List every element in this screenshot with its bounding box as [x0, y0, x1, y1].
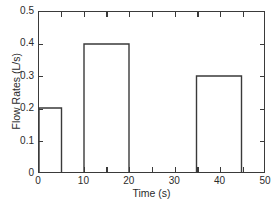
y-axis-tick-label: 0.1	[20, 136, 34, 146]
plot-area	[38, 11, 265, 173]
bar-series-svg	[39, 12, 264, 172]
x-axis-tick-label: 20	[123, 176, 134, 186]
flow-rates-chart-figure: 00.10.20.30.40.5 Flow Rates (L/s) 010203…	[0, 0, 276, 202]
y-axis-title: Flow Rates (L/s)	[11, 16, 22, 166]
bar-outline	[39, 108, 62, 172]
bar-outline	[197, 76, 242, 172]
x-axis-tick-label: 30	[169, 176, 180, 186]
y-axis-tick-label: 0.3	[20, 71, 34, 81]
x-axis-title: Time (s)	[38, 188, 265, 199]
y-axis-tick-label: 0.5	[20, 6, 34, 16]
x-axis-tick-label: 10	[78, 176, 89, 186]
y-axis-tick-label: 0.4	[20, 38, 34, 48]
x-axis-tick-label: 40	[214, 176, 225, 186]
y-axis-tick-label: 0	[28, 168, 34, 178]
bar-outline	[84, 44, 129, 172]
x-axis-tick-label: 0	[35, 176, 41, 186]
x-axis-tick-label: 50	[259, 176, 270, 186]
y-axis-tick-label: 0.2	[20, 103, 34, 113]
bar-series-layer	[39, 12, 264, 172]
